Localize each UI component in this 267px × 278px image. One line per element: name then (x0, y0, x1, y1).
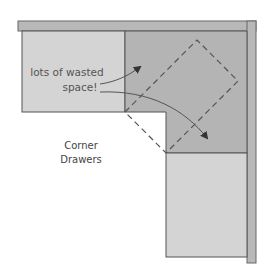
right-cabinet (166, 153, 247, 257)
label-line-2: Drawers (60, 154, 102, 165)
annotation-line-2: space! (62, 81, 97, 93)
label-line-1: Corner (64, 140, 99, 151)
corner-cabinet (125, 31, 247, 153)
corner-drawers-diagram: lots of wasted space! Corner Drawers (0, 0, 267, 278)
annotation-line-1: lots of wasted (30, 66, 103, 78)
